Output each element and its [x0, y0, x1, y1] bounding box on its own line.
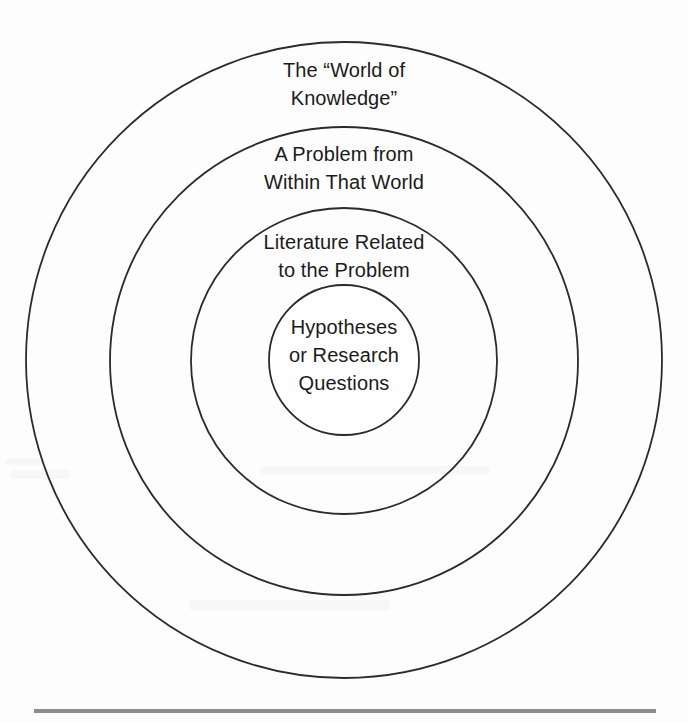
ring-label-outer: The “World of Knowledge”: [194, 56, 494, 112]
ring-label-third: Literature Related to the Problem: [194, 228, 494, 284]
ring-label-second: A Problem from Within That World: [194, 140, 494, 196]
ring-label-core: Hypotheses or Research Questions: [244, 313, 444, 397]
concentric-rings-diagram: The “World of Knowledge” A Problem from …: [0, 0, 688, 723]
